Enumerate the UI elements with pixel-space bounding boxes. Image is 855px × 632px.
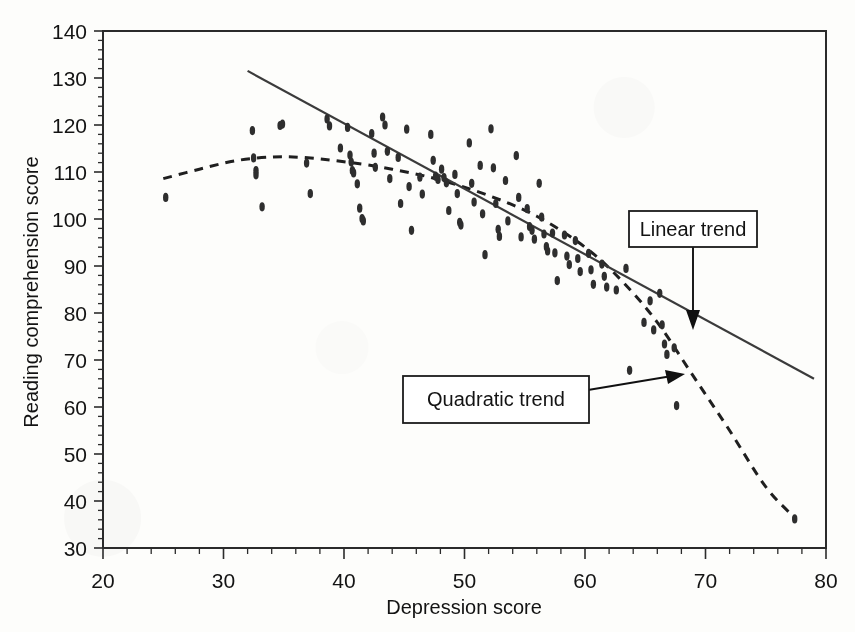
data-point [647, 296, 652, 305]
data-point [385, 147, 390, 156]
data-point [627, 366, 632, 375]
data-point [651, 325, 656, 334]
data-point [435, 175, 440, 184]
x-tick-label: 80 [814, 569, 837, 592]
data-point [428, 130, 433, 139]
data-point [588, 265, 593, 274]
data-point [250, 126, 255, 135]
data-point [503, 176, 508, 185]
data-point [458, 221, 463, 230]
y-tick-label: 100 [52, 208, 87, 231]
data-point [674, 401, 679, 410]
quadratic-trend-arrow-shaft [588, 376, 672, 390]
data-point [373, 163, 378, 172]
data-point [387, 174, 392, 183]
data-point [514, 151, 519, 160]
linear-trend-label: Linear trend [640, 218, 747, 240]
data-point [369, 129, 374, 138]
data-point [482, 250, 487, 259]
data-point [280, 120, 285, 129]
data-point [431, 156, 436, 165]
scatter-plot: 30405060708090100110120130140 2030405060… [0, 0, 855, 632]
data-point [446, 206, 451, 215]
data-point [480, 209, 485, 218]
x-axis-title: Depression score [386, 596, 542, 618]
y-tick-label: 80 [64, 302, 87, 325]
data-point [420, 190, 425, 199]
data-point [662, 339, 667, 348]
data-point [792, 514, 797, 523]
data-point [659, 320, 664, 329]
y-axis-ticks [94, 31, 103, 548]
y-tick-label: 110 [54, 161, 87, 184]
data-point [349, 158, 354, 167]
y-tick-label: 60 [64, 396, 87, 419]
x-axis-ticks [103, 548, 826, 559]
data-point [586, 249, 591, 258]
data-point [488, 124, 493, 133]
data-point [355, 179, 360, 188]
data-point [357, 204, 362, 213]
data-point [578, 267, 583, 276]
data-point [467, 138, 472, 147]
quadratic-trend-label: Quadratic trend [427, 388, 565, 410]
data-point [455, 189, 460, 198]
data-point [382, 120, 387, 129]
data-point [338, 143, 343, 152]
data-point [478, 161, 483, 170]
x-tick-label: 60 [573, 569, 596, 592]
x-tick-label: 40 [332, 569, 355, 592]
data-point [672, 343, 677, 352]
data-point [564, 252, 569, 261]
data-point [552, 248, 557, 257]
y-tick-label: 120 [52, 114, 87, 137]
data-point [555, 276, 560, 285]
data-point [505, 216, 510, 225]
x-tick-label: 70 [694, 569, 717, 592]
data-point [493, 199, 498, 208]
x-tick-label: 20 [91, 569, 114, 592]
y-tick-label: 130 [52, 67, 87, 90]
annotation-quadratic-trend: Quadratic trend [403, 370, 685, 423]
data-point [614, 285, 619, 294]
y-axis-title: Reading comprehension score [20, 156, 42, 427]
data-point [664, 350, 669, 359]
data-point [545, 246, 550, 255]
data-point [163, 193, 168, 202]
x-tick-label: 50 [453, 569, 476, 592]
quadratic-trend-arrow-head [665, 370, 685, 384]
data-point [537, 179, 542, 188]
data-point [409, 226, 414, 235]
data-point [657, 289, 662, 298]
data-point [308, 189, 313, 198]
data-point [253, 170, 258, 179]
data-point [575, 254, 580, 263]
data-point [406, 182, 411, 191]
data-point [525, 204, 530, 213]
data-point [380, 112, 385, 121]
data-point [251, 153, 256, 162]
data-point [516, 193, 521, 202]
data-point [396, 153, 401, 162]
data-point [491, 163, 496, 172]
data-point [532, 235, 537, 244]
data-point [550, 229, 555, 238]
data-point [604, 283, 609, 292]
data-point [623, 264, 628, 273]
data-point [529, 226, 534, 235]
linear-trend-arrow-head [686, 310, 700, 330]
data-point [541, 229, 546, 238]
data-point [591, 280, 596, 289]
data-point [573, 236, 578, 245]
data-point [452, 170, 457, 179]
data-point [641, 318, 646, 327]
data-point [518, 232, 523, 241]
data-point [439, 165, 444, 174]
y-tick-label: 90 [64, 255, 87, 278]
data-point [602, 272, 607, 281]
y-tick-label: 50 [64, 443, 87, 466]
data-point [417, 173, 422, 182]
data-point [351, 168, 356, 177]
data-point [371, 149, 376, 158]
data-point [539, 213, 544, 222]
